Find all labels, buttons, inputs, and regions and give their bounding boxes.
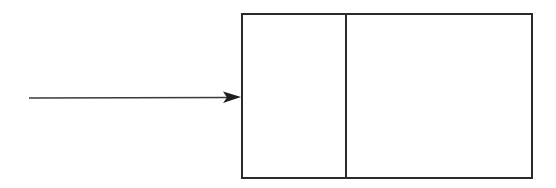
- list-node: [242, 14, 532, 178]
- incoming-arrow: [29, 92, 241, 104]
- node-outer-box: [242, 14, 532, 178]
- diagram-canvas: [0, 0, 556, 188]
- diagram-svg: [0, 0, 556, 188]
- arrow-shaft: [29, 98, 228, 99]
